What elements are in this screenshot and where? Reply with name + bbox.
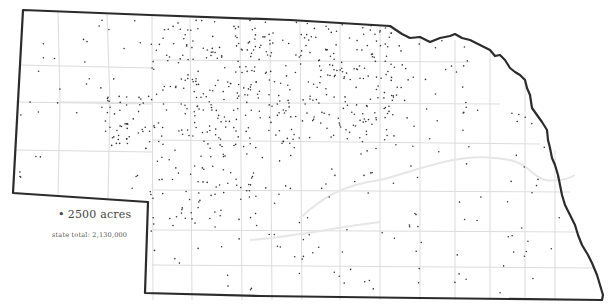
data-dot bbox=[429, 138, 431, 140]
data-dot bbox=[270, 122, 272, 124]
data-dot bbox=[214, 21, 216, 23]
data-dot bbox=[192, 135, 194, 137]
data-dot bbox=[356, 104, 358, 106]
data-dot bbox=[338, 117, 340, 119]
data-dot bbox=[237, 108, 239, 110]
data-dot bbox=[285, 65, 287, 67]
data-dot bbox=[319, 59, 321, 61]
data-dot bbox=[187, 74, 189, 76]
data-dot bbox=[180, 103, 182, 105]
data-dot bbox=[253, 172, 255, 174]
data-dot bbox=[182, 55, 184, 57]
data-dot bbox=[224, 116, 226, 118]
data-dot bbox=[389, 36, 391, 38]
data-dot bbox=[332, 65, 334, 67]
data-dot bbox=[149, 130, 151, 132]
data-dot bbox=[235, 130, 237, 132]
data-dot bbox=[511, 235, 513, 237]
data-dot bbox=[170, 86, 172, 88]
data-dot bbox=[380, 45, 382, 47]
data-dot bbox=[100, 87, 102, 89]
data-dot bbox=[468, 146, 470, 148]
data-dot bbox=[329, 75, 331, 77]
data-dot bbox=[211, 109, 213, 111]
data-dot bbox=[215, 134, 217, 136]
data-dot bbox=[259, 91, 261, 93]
data-dot bbox=[341, 68, 343, 70]
data-dot bbox=[362, 141, 364, 143]
data-dot bbox=[287, 100, 289, 102]
data-dot bbox=[335, 44, 337, 46]
data-dot bbox=[289, 89, 291, 91]
data-dot bbox=[144, 127, 146, 129]
data-dot bbox=[368, 119, 370, 121]
data-dot bbox=[255, 213, 257, 215]
data-dot bbox=[167, 60, 169, 62]
data-dot bbox=[544, 146, 546, 148]
data-dot bbox=[250, 86, 252, 88]
data-dot bbox=[206, 57, 208, 59]
data-dot bbox=[275, 134, 277, 136]
data-dot bbox=[259, 117, 261, 119]
data-dot bbox=[343, 282, 345, 284]
data-dot bbox=[192, 79, 194, 81]
data-dot bbox=[43, 57, 45, 59]
data-dot bbox=[277, 245, 279, 247]
data-dot bbox=[339, 122, 341, 124]
data-dot bbox=[238, 26, 240, 28]
data-dot bbox=[206, 182, 208, 184]
data-dot bbox=[316, 99, 318, 101]
data-dot bbox=[237, 92, 239, 94]
data-dot bbox=[227, 285, 229, 287]
data-dot bbox=[148, 96, 150, 98]
data-dot bbox=[181, 212, 183, 214]
data-dot bbox=[215, 85, 217, 87]
data-dot bbox=[221, 146, 223, 148]
data-dot bbox=[236, 119, 238, 121]
data-dot bbox=[353, 124, 355, 126]
data-dot bbox=[197, 207, 199, 209]
data-dot bbox=[359, 120, 361, 122]
data-dot bbox=[338, 275, 340, 277]
data-dot bbox=[169, 56, 171, 58]
data-dot bbox=[174, 258, 176, 260]
data-dot bbox=[191, 47, 193, 49]
data-dot bbox=[230, 172, 232, 174]
data-dot bbox=[306, 112, 308, 114]
data-dot bbox=[192, 40, 194, 42]
data-dot bbox=[464, 46, 466, 48]
data-dot bbox=[150, 191, 152, 193]
data-dot bbox=[370, 29, 372, 31]
data-dot bbox=[107, 97, 109, 99]
data-dot bbox=[20, 176, 22, 178]
data-dot bbox=[356, 40, 358, 42]
data-dot bbox=[184, 34, 186, 36]
data-dot bbox=[237, 98, 239, 100]
data-dot bbox=[406, 117, 408, 119]
data-dot bbox=[376, 40, 378, 42]
data-dot bbox=[281, 142, 283, 144]
data-dot bbox=[235, 71, 237, 73]
data-dot bbox=[247, 49, 249, 51]
data-dot bbox=[307, 217, 309, 219]
data-dot bbox=[220, 139, 222, 141]
data-dot bbox=[367, 192, 369, 194]
data-dot bbox=[194, 165, 196, 167]
data-dot bbox=[400, 50, 402, 52]
data-dot bbox=[195, 127, 197, 129]
data-dot bbox=[162, 37, 164, 39]
data-dot bbox=[198, 192, 200, 194]
data-dot bbox=[119, 125, 121, 127]
data-dot bbox=[268, 104, 270, 106]
data-dot bbox=[181, 209, 183, 211]
data-dot bbox=[289, 142, 291, 144]
data-dot bbox=[198, 84, 200, 86]
data-dot bbox=[404, 100, 406, 102]
data-dot bbox=[180, 28, 182, 30]
data-dot bbox=[288, 106, 290, 108]
data-dot bbox=[197, 71, 199, 73]
data-dot bbox=[315, 36, 317, 38]
data-dot bbox=[162, 193, 164, 195]
data-dot bbox=[194, 222, 196, 224]
data-dot bbox=[218, 115, 220, 117]
